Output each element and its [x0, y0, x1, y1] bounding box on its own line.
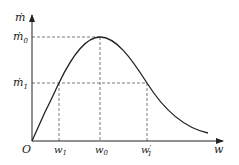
origin-label: O	[22, 143, 31, 156]
x-tick-w1: w1	[54, 144, 67, 157]
y-tick-m0: ṁ0	[13, 30, 28, 45]
y-axis-label: ṁ	[15, 11, 25, 24]
guide-lines	[32, 37, 147, 141]
curve-m-vs-w	[32, 37, 208, 141]
chart: ṁ ṁ0 ṁ1 O w1 w0 w′1 w	[0, 0, 239, 165]
y-tick-m1: ṁ1	[13, 76, 28, 91]
x-axis-label: w	[214, 143, 224, 156]
x-tick-w1-prime: w′1	[141, 143, 152, 158]
x-tick-w0: w0	[95, 144, 109, 157]
